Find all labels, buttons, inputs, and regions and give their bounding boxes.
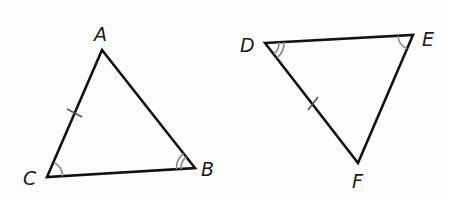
angle-c-arc: [54, 163, 62, 177]
triangle-abc-outline: [47, 50, 195, 177]
geometry-diagram: A B C D E F: [0, 0, 449, 197]
angle-b-arc-inner: [181, 157, 186, 169]
vertex-label-c: C: [23, 167, 37, 189]
vertex-label-e: E: [422, 28, 434, 50]
vertex-label-b: B: [201, 158, 214, 180]
angle-e-arc: [398, 36, 407, 49]
triangle-abc: A B C: [23, 23, 214, 189]
vertex-label-a: A: [92, 23, 107, 45]
vertex-label-d: D: [240, 34, 255, 56]
triangle-def: D E F: [240, 28, 434, 192]
angle-d-arc-inner: [274, 42, 279, 54]
triangle-def-outline: [265, 35, 413, 163]
vertex-label-f: F: [352, 170, 364, 192]
